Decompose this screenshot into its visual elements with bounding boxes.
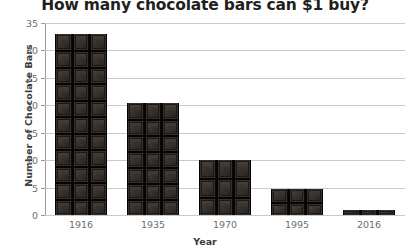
chocolate-square-inner [219,200,232,214]
chocolate-square-inner [92,70,105,82]
chocolate-row [200,197,250,215]
bar [343,210,395,215]
chocolate-square [89,135,106,149]
chocolate-square [161,169,178,183]
chocolate-square [360,210,378,215]
y-axis-tick-label: 15 [26,127,38,138]
chocolate-row [128,119,178,135]
chocolate-square [344,210,360,215]
chocolate-square-inner [75,103,88,115]
chocolate-square-inner [75,70,88,82]
x-axis-tick-label: 2016 [357,219,381,230]
chocolate-row [272,202,322,215]
chocolate-square-inner [164,170,177,182]
chocolate-square [233,160,250,178]
chocolate-square [288,189,306,202]
chocolate-row [200,160,250,178]
chocolate-square-inner [129,104,142,118]
chocolate-square [288,204,306,215]
chocolate-square-inner [57,53,70,65]
chocolate-square [89,118,106,132]
chocolate-square-inner [164,202,177,214]
chocolate-square [216,180,234,196]
chocolate-square-inner [273,205,286,214]
chocolate-square [128,103,144,119]
chocolate-square [56,102,72,116]
chocolate-square [72,34,90,50]
chocolate-square [56,168,72,182]
y-axis-tick-label: 25 [26,72,38,83]
chocolate-square [144,185,162,199]
y-tick-mark [41,188,45,189]
x-axis-tick-label: 1935 [141,219,165,230]
chocolate-row [56,166,106,182]
chocolate-square [56,118,72,132]
chocolate-square-inner [129,186,142,198]
chocolate-square [161,201,178,215]
chocolate-row [344,210,394,215]
chocolate-square [272,204,288,215]
chocolate-square [128,185,144,199]
chocolate-square [216,160,234,178]
bar [271,189,323,215]
chocolate-square-inner [164,154,177,166]
chocolate-square-inner [57,119,70,131]
chocolate-square-inner [57,86,70,98]
chocolate-square [128,169,144,183]
chocolate-square-inner [129,170,142,182]
chocolate-square [128,153,144,167]
chocolate-square-inner [147,170,160,182]
y-axis-title: Number of Chocolate Bars [23,31,34,201]
chocolate-square [89,168,106,182]
chocolate-square [89,102,106,116]
chocolate-square [89,85,106,99]
y-tick-mark [41,133,45,134]
x-axis-tick-label: 1970 [213,219,237,230]
chocolate-square-inner [57,103,70,115]
chocolate-square-inner [57,70,70,82]
y-axis-tick-label: 0 [32,210,38,221]
chocolate-square [56,85,72,99]
y-axis-tick-label: 20 [26,100,38,111]
chocolate-square [144,153,162,167]
chocolate-square [56,52,72,66]
chocolate-square-inner [219,161,232,177]
chocolate-square-inner [147,104,160,118]
chocolate-square-inner [291,205,304,214]
chocolate-square-inner [363,211,376,214]
x-axis-tick-label: 1995 [285,219,309,230]
chocolate-row [56,149,106,165]
chocolate-row [56,133,106,149]
chocolate-square-inner [92,202,105,214]
chocolate-row [56,199,106,215]
chocolate-row [128,103,178,119]
chocolate-square [72,168,90,182]
chocolate-square [200,180,216,196]
chocolate-square-inner [57,202,70,214]
chocolate-square-inner [92,119,105,131]
chocolate-row [128,151,178,167]
chocolate-square [305,189,322,202]
chocolate-square [89,52,106,66]
chocolate-square [72,118,90,132]
chocolate-square [72,102,90,116]
chocolate-square [200,160,216,178]
chocolate-square [56,69,72,83]
chocolate-row [56,50,106,66]
plot-area: 05101520253035 [45,23,405,215]
chocolate-square [89,34,106,50]
chocolate-square-inner [129,138,142,150]
chocolate-square-inner [164,104,177,118]
chocolate-square-inner [308,205,321,214]
chocolate-square-inner [164,186,177,198]
y-tick-mark [41,50,45,51]
y-tick-mark [41,105,45,106]
chocolate-square-inner [236,161,249,177]
chocolate-square-inner [92,152,105,164]
chocolate-square-inner [273,190,286,201]
chocolate-square [144,121,162,135]
chocolate-square [128,121,144,135]
chocolate-square-inner [92,35,105,49]
chocolate-row [56,83,106,99]
chocolate-square [144,201,162,215]
